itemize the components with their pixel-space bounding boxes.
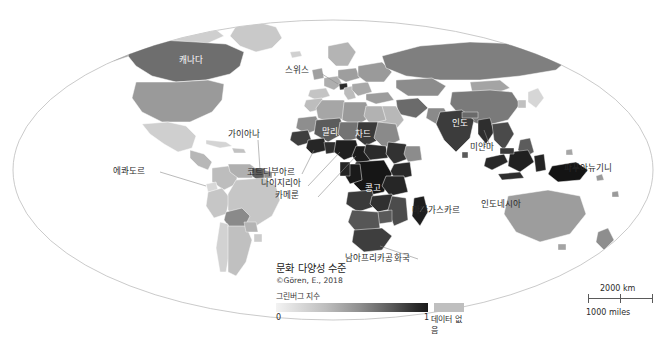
map-label-mali: 말리	[322, 128, 338, 137]
scale-bar-km-label: 2000 km	[600, 284, 635, 293]
map-label-ecuador: 에콰도르	[113, 167, 145, 176]
legend: 문화 다양성 수준 ©Gören, E., 2018 그린버그 지수 0 1 데…	[276, 260, 466, 323]
map-label-nigeria: 나이지리아	[261, 179, 302, 188]
legend-title: 문화 다양성 수준	[276, 260, 466, 275]
legend-subtitle: 그린버그 지수	[276, 290, 466, 301]
country-sri-lanka	[462, 152, 468, 158]
legend-gradient	[276, 303, 428, 312]
map-figure: 캐나다 스위스 가이아나 에콰도르 코트디부아르 나이지리아 카메룬 말리 차드…	[0, 0, 666, 348]
country-korea	[518, 100, 526, 108]
map-label-myanmar: 미얀마	[470, 143, 494, 152]
legend-no-data-label: 데이터 없음	[431, 313, 464, 335]
map-label-india: 인도	[452, 119, 468, 128]
legend-tick-labels: 0 1 데이터 없음	[276, 312, 464, 323]
country-paraguay	[244, 222, 258, 232]
map-label-madagascar: 마다가스카르	[412, 206, 461, 215]
scale-bar-tick-mid	[620, 294, 621, 303]
scale-bar-miles-label: 1000 miles	[586, 308, 630, 317]
map-label-cameroon: 카메룬	[275, 191, 299, 200]
country-indonesia-sulawesi	[534, 154, 546, 172]
scale-bar-tick-right	[652, 294, 653, 303]
country-uruguay	[254, 234, 262, 242]
map-label-congo: 콩고	[365, 184, 381, 193]
legend-no-data-swatch	[434, 303, 464, 312]
legend-color-bar	[276, 303, 464, 312]
map-label-indonesia: 인도네시아	[481, 200, 522, 209]
scale-bar-tick-left	[588, 294, 589, 303]
map-label-switzerland: 스위스	[285, 66, 309, 75]
map-label-cote-divoire: 코트디부아르	[247, 168, 296, 177]
country-pacific-islands-3	[566, 149, 573, 155]
map-label-chad: 차드	[355, 130, 371, 139]
map-label-papua-new-guinea: 파푸아뉴기니	[564, 164, 613, 173]
legend-attribution: ©Gören, E., 2018	[276, 276, 466, 285]
country-tasmania	[558, 244, 566, 250]
country-somalia	[404, 146, 422, 162]
map-label-guyana: 가이아나	[228, 130, 260, 139]
scale-bar: 2000 km 1000 miles	[586, 284, 658, 320]
country-pacific-islands-2	[612, 191, 619, 197]
map-label-canada: 캐나다	[179, 56, 203, 65]
legend-min-label: 0	[276, 313, 281, 322]
legend-max-label: 1	[424, 313, 429, 322]
country-malaysia	[500, 148, 514, 154]
